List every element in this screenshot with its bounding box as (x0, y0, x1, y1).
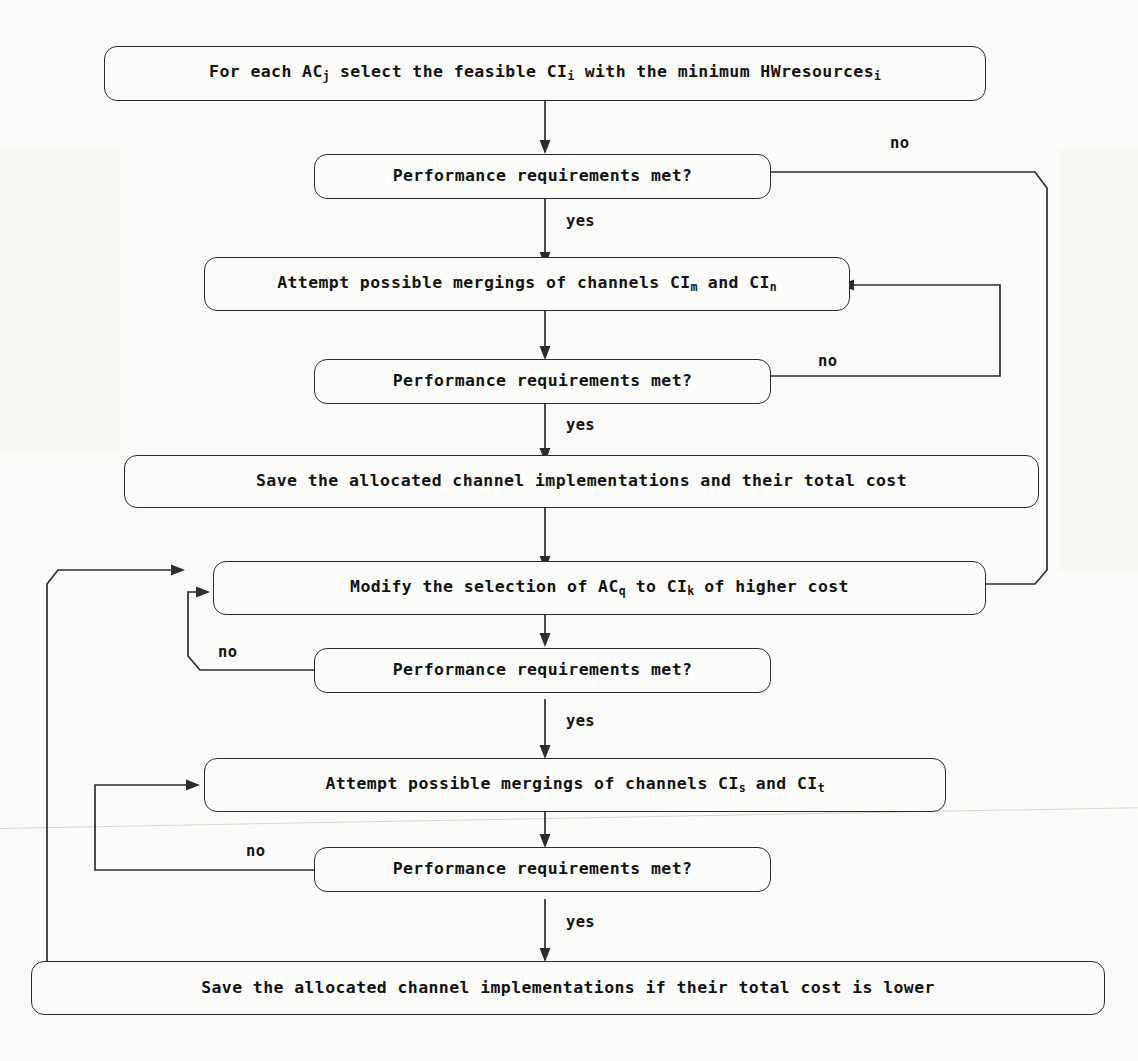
node-start-label: For each ACj select the feasible CIi wit… (209, 64, 881, 83)
scan-artifact (0, 150, 120, 450)
node-save-1-label: Save the allocated channel implementatio… (256, 473, 907, 490)
node-modify-label: Modify the selection of ACq to CIk of hi… (350, 579, 849, 598)
node-save-allocations-2[interactable]: Save the allocated channel implementatio… (31, 961, 1105, 1015)
edge-label-yes-3: yes (566, 712, 595, 730)
node-decision-1-label: Performance requirements met? (393, 168, 693, 185)
node-merge-channels-1[interactable]: Attempt possible mergings of channels CI… (204, 257, 850, 311)
edge-label-yes-2: yes (566, 416, 595, 434)
node-decision-performance-3[interactable]: Performance requirements met? (314, 648, 771, 693)
node-merge-2-label: Attempt possible mergings of channels CI… (325, 776, 824, 795)
node-save-2-label: Save the allocated channel implementatio… (201, 980, 935, 997)
node-decision-performance-2[interactable]: Performance requirements met? (314, 359, 771, 404)
flowchart-canvas: For each ACj select the feasible CIi wit… (0, 0, 1138, 1061)
node-decision-4-label: Performance requirements met? (393, 861, 693, 878)
edge-label-no-1: no (890, 134, 909, 152)
edge-label-no-3: no (218, 643, 237, 661)
node-decision-3-label: Performance requirements met? (393, 662, 693, 679)
scan-artifact (1060, 150, 1138, 570)
node-decision-performance-1[interactable]: Performance requirements met? (314, 154, 771, 199)
edge-label-no-4: no (246, 842, 265, 860)
edge-label-yes-1: yes (566, 212, 595, 230)
node-decision-performance-4[interactable]: Performance requirements met? (314, 847, 771, 892)
node-decision-2-label: Performance requirements met? (393, 373, 693, 390)
node-modify-selection[interactable]: Modify the selection of ACq to CIk of hi… (213, 561, 986, 615)
node-merge-1-label: Attempt possible mergings of channels CI… (277, 275, 777, 294)
node-save-allocations-1[interactable]: Save the allocated channel implementatio… (124, 455, 1039, 508)
node-merge-channels-2[interactable]: Attempt possible mergings of channels CI… (204, 758, 946, 812)
edge-label-no-2: no (818, 352, 837, 370)
node-start[interactable]: For each ACj select the feasible CIi wit… (104, 46, 986, 101)
edge-label-yes-4: yes (566, 913, 595, 931)
